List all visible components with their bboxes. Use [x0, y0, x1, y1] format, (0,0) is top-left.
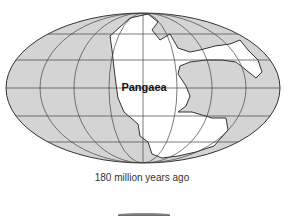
- next-map-edge: [118, 213, 170, 216]
- map-caption: 180 million years ago: [0, 172, 284, 183]
- world-map-mollweide: Pangaea: [0, 0, 284, 172]
- pangaea-label: Pangaea: [121, 81, 167, 93]
